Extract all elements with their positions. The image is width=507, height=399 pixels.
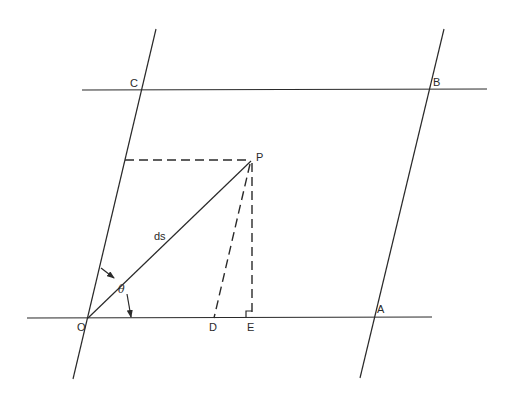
label-b: B — [433, 76, 440, 88]
label-c: C — [130, 77, 138, 89]
theta-arrow-to-oa — [127, 294, 131, 317]
line-ab — [360, 29, 444, 378]
dashed-parallel-pd — [214, 164, 250, 318]
label-d: D — [209, 321, 217, 333]
ds-vector — [88, 161, 251, 318]
oblique-coordinate-diagram: O A B C D E P ds θ — [0, 0, 507, 399]
label-p: P — [256, 151, 263, 163]
label-o: O — [77, 321, 86, 333]
label-theta: θ — [118, 283, 125, 296]
theta-arrow-to-oc — [101, 268, 114, 278]
label-ds: ds — [154, 230, 166, 242]
label-e: E — [247, 321, 254, 333]
line-cb — [82, 89, 487, 90]
label-a: A — [377, 303, 385, 315]
